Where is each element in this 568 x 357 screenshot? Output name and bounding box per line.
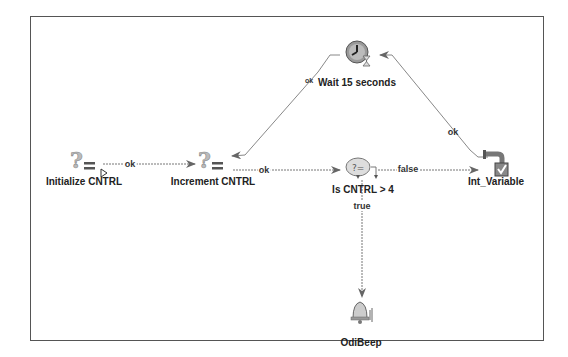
node-increment-cntrl[interactable]: ? [196, 148, 226, 178]
node-label: Increment CNTRL [171, 176, 255, 187]
edge-label-ok: ok [258, 165, 271, 175]
node-initialize-cntrl[interactable]: ? [68, 148, 98, 178]
node-is-cntrl-gt-4[interactable]: ?= [344, 155, 374, 185]
node-label: OdiBeep [340, 337, 381, 348]
svg-text:?: ? [70, 148, 83, 173]
edge-label-false: false [397, 164, 420, 174]
bell-icon [347, 298, 377, 328]
set-variable-icon: ? [68, 148, 98, 178]
node-odibeep[interactable] [347, 298, 377, 328]
set-variable-icon: ? [196, 148, 226, 178]
edge-label-ok: ok [124, 159, 137, 169]
svg-text:?=: ?= [352, 163, 364, 173]
node-int-variable[interactable] [480, 148, 510, 178]
refresh-variable-icon [480, 148, 510, 178]
edge-label-ok: ok [304, 77, 314, 84]
edge-label-true: true [352, 201, 371, 211]
wait-clock-icon [343, 38, 373, 68]
node-wait-15-seconds[interactable] [343, 38, 373, 68]
evaluate-variable-icon: ?= [344, 155, 378, 185]
edge-label-ok: ok [447, 127, 460, 137]
cursor-icon [100, 168, 108, 178]
edge-intvariable-wait[interactable] [380, 55, 488, 157]
node-label: Wait 15 seconds [318, 77, 396, 88]
edge-wait-increment[interactable] [232, 55, 340, 156]
svg-text:?: ? [198, 148, 211, 173]
node-label: Initialize CNTRL [46, 176, 122, 187]
node-label: Is CNTRL > 4 [332, 184, 394, 195]
node-label: Int_Variable [468, 176, 524, 187]
